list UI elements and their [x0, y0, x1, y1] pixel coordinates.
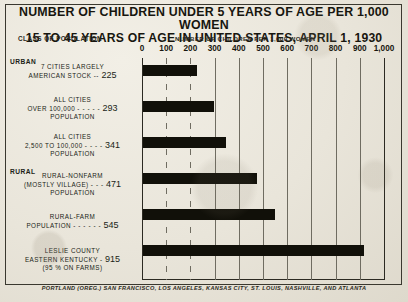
bar-341: [143, 137, 226, 148]
row-label-341: ALL CITIES2,500 TO 100,000 - - - - 341PO…: [6, 133, 139, 159]
x-tick-label-0: 0: [140, 44, 145, 53]
bar-915: [143, 245, 364, 256]
chart-footer-cities: PORTLAND (OREG.) SAN FRANCISCO, LOS ANGE…: [0, 285, 408, 291]
x-tick-label-500: 500: [256, 44, 270, 53]
row-label-line: POPULATION: [6, 113, 139, 121]
leader-dashes: - - -: [91, 181, 106, 188]
row-label-line: POPULATION: [6, 150, 139, 158]
row-label-line: (95 % ON FARMS): [6, 264, 139, 272]
row-label-text: AMERICAN STOCK: [29, 72, 94, 79]
gridline-1000: [384, 58, 385, 280]
leader-dashes: - - - - -: [77, 105, 102, 112]
row-label-text: OVER 100,000: [27, 105, 77, 112]
x-tick-label-1000: 1,000: [374, 44, 395, 53]
bar-293: [143, 101, 214, 112]
x-tick-label-200: 200: [184, 44, 198, 53]
column-header-class-of-population: CLASS OF POPULATION: [18, 35, 102, 42]
bar-545: [143, 209, 275, 220]
column-header-number-of-children: NUMBER OF CHILDREN PER 1,000 WOMEN: [175, 35, 316, 42]
x-tick-label-300: 300: [208, 44, 222, 53]
row-label-text: EASTERN KENTUCKY: [25, 256, 100, 263]
bar-471: [143, 173, 257, 184]
row-label-line-with-value: (MOSTLY VILLAGE) - - - 471: [6, 180, 139, 189]
plot-area: [142, 58, 384, 280]
row-label-text: POPULATION: [26, 222, 73, 229]
row-label-line: 7 CITIES LARGELY: [6, 63, 139, 71]
row-label-line: RURAL-FARM: [6, 213, 139, 221]
chart-page: NUMBER OF CHILDREN UNDER 5 YEARS OF AGE …: [0, 0, 408, 302]
bar-225: [143, 65, 197, 76]
row-value-545: 545: [104, 220, 119, 230]
row-label-text: 2,500 TO 100,000: [25, 142, 85, 149]
x-tick-label-600: 600: [280, 44, 294, 53]
row-label-471: RURAL-NONFARM(MOSTLY VILLAGE) - - - 471P…: [6, 172, 139, 198]
row-label-line-with-value: EASTERN KENTUCKY - 915: [6, 255, 139, 264]
row-label-line-with-value: POPULATION - - - - - - 545: [6, 221, 139, 230]
row-value-225: 225: [101, 70, 116, 80]
x-axis-tick-labels: 01002003004005006007008009001,000: [142, 44, 390, 56]
leader-dashes: - - - - - -: [73, 222, 103, 229]
row-label-text: (MOSTLY VILLAGE): [24, 181, 91, 188]
leader-dashes: - - - -: [85, 142, 105, 149]
row-label-line-with-value: 2,500 TO 100,000 - - - - 341: [6, 141, 139, 150]
row-label-225: 7 CITIES LARGELYAMERICAN STOCK -- 225: [6, 63, 139, 80]
row-label-915: LESLIE COUNTYEASTERN KENTUCKY - 915(95 %…: [6, 247, 139, 273]
x-tick-label-100: 100: [159, 44, 173, 53]
row-value-471: 471: [106, 179, 121, 189]
row-label-line: POPULATION: [6, 189, 139, 197]
row-label-line-with-value: AMERICAN STOCK -- 225: [6, 71, 139, 80]
row-value-915: 915: [105, 254, 120, 264]
row-label-545: RURAL-FARMPOPULATION - - - - - - 545: [6, 213, 139, 230]
x-tick-label-700: 700: [305, 44, 319, 53]
x-tick-label-900: 900: [353, 44, 367, 53]
row-label-line: ALL CITIES: [6, 96, 139, 104]
chart-title-line-1: NUMBER OF CHILDREN UNDER 5 YEARS OF AGE …: [6, 6, 402, 32]
row-value-341: 341: [105, 140, 120, 150]
row-label-293: ALL CITIESOVER 100,000 - - - - - 293POPU…: [6, 96, 139, 122]
row-label-line-with-value: OVER 100,000 - - - - - 293: [6, 104, 139, 113]
x-tick-label-400: 400: [232, 44, 246, 53]
x-tick-label-800: 800: [329, 44, 343, 53]
row-value-293: 293: [103, 103, 118, 113]
